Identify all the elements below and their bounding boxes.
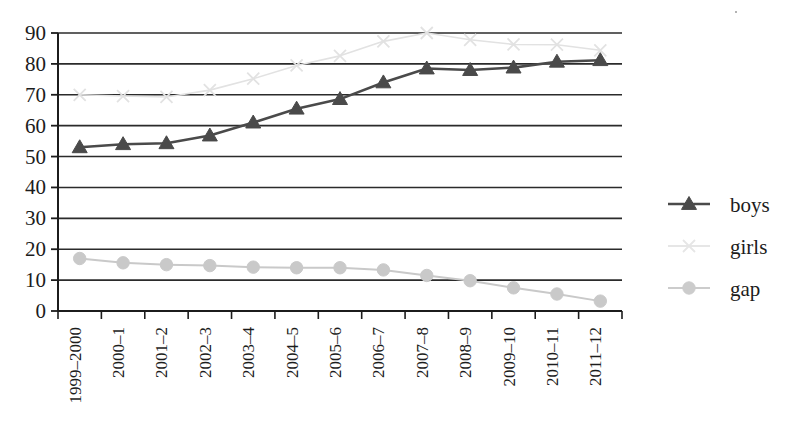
y-axis-tick-label: 40	[25, 175, 46, 199]
y-axis-tick-label: 70	[25, 83, 46, 107]
x-axis-tick-label: 2007–8	[413, 327, 432, 378]
scan-speck	[735, 11, 737, 13]
x-axis-tick-label: 2006–7	[369, 327, 388, 379]
x-axis-tick-label: 2010–11	[543, 327, 562, 386]
data-point-marker	[73, 252, 85, 264]
x-axis-tick-label: 2004–5	[283, 327, 302, 378]
data-point-marker	[594, 295, 606, 307]
data-point-marker	[377, 264, 389, 276]
x-axis-tick-label: 1999–2000	[66, 327, 85, 404]
chart-canvas: 0102030405060708090 1999–20002000–12001–…	[0, 0, 797, 445]
data-point-marker	[160, 258, 172, 270]
line-chart: 0102030405060708090 1999–20002000–12001–…	[0, 0, 797, 445]
x-axis-tick-label: 2008–9	[456, 327, 475, 378]
x-axis-tick-label: 2011–12	[586, 327, 605, 386]
y-axis-tick-label: 30	[25, 206, 46, 230]
x-axis-tick-label: 2000–1	[109, 327, 128, 378]
y-axis-tick-label: 60	[25, 114, 46, 138]
y-axis-tick-label: 80	[25, 52, 46, 76]
x-axis-tick-label: 2003–4	[239, 327, 258, 379]
y-axis-tick-label: 10	[25, 268, 46, 292]
x-axis-tick-label: 2001–2	[152, 327, 171, 378]
data-point-marker	[683, 282, 695, 294]
x-axis-tick-label: 2005–6	[326, 327, 345, 378]
legend-label-girls: girls	[730, 235, 767, 259]
y-axis-tick-label: 90	[25, 21, 46, 45]
data-point-marker	[507, 282, 519, 294]
x-axis-tick-label: 2002–3	[196, 327, 215, 378]
legend-label-gap: gap	[730, 277, 760, 301]
data-point-marker	[421, 269, 433, 281]
data-point-marker	[247, 261, 259, 273]
x-axis-tick-label: 2009–10	[500, 327, 519, 387]
y-axis-tick-label: 0	[36, 299, 47, 323]
data-point-marker	[551, 288, 563, 300]
y-axis-tick-label: 50	[25, 145, 46, 169]
data-point-marker	[117, 257, 129, 269]
data-point-marker	[290, 262, 302, 274]
y-axis-tick-label: 20	[25, 237, 46, 261]
data-point-marker	[464, 275, 476, 287]
data-point-marker	[334, 262, 346, 274]
legend-label-boys: boys	[730, 193, 770, 217]
data-point-marker	[204, 259, 216, 271]
